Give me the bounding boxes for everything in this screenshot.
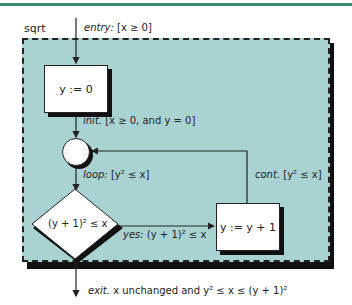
yes-name: yes:	[123, 229, 144, 240]
merge-node	[62, 138, 90, 166]
flow-arrows	[0, 0, 352, 305]
loop-condition: [y² ≤ x]	[111, 169, 149, 180]
yes-condition: (y + 1)² ≤ x	[147, 229, 206, 240]
decision-text: (y + 1)² ≤ x	[48, 218, 107, 229]
exit-label: exit. x unchanged and y² ≤ x ≤ (y + 1)²	[88, 285, 287, 296]
init-box: y := 0	[44, 65, 108, 113]
init-name: init.	[83, 115, 102, 126]
cont-label: cont. [y² ≤ x]	[255, 169, 322, 180]
loop-label: loop: [y² ≤ x]	[83, 169, 149, 180]
cont-condition: [y² ≤ x]	[283, 169, 321, 180]
exit-name: exit.	[88, 285, 110, 296]
init-label: init. [x ≥ 0, and y = 0]	[83, 115, 195, 126]
loop-name: loop:	[83, 169, 108, 180]
exit-condition: x unchanged and y² ≤ x ≤ (y + 1)²	[113, 285, 287, 296]
yes-label: yes: (y + 1)² ≤ x	[123, 229, 206, 240]
cont-name: cont.	[255, 169, 280, 180]
init-condition: [x ≥ 0, and y = 0]	[105, 115, 195, 126]
increment-box: y := y + 1	[216, 203, 280, 251]
